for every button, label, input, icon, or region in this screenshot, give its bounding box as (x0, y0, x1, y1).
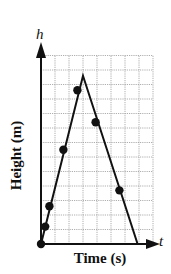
trajectory-polyline (41, 76, 138, 244)
data-point (59, 146, 67, 154)
axes (36, 42, 160, 249)
y-axis-label: Height (m) (2, 90, 32, 220)
x-axis-symbol: t (159, 233, 163, 250)
data-point (37, 240, 45, 248)
data-point (45, 202, 53, 210)
data-point (115, 186, 123, 194)
y-axis-label-text: Height (m) (9, 120, 26, 190)
y-axis-arrow-icon (36, 42, 46, 58)
data-point (91, 118, 99, 126)
x-axis-label: Time (s) (50, 250, 150, 267)
grid (41, 56, 153, 245)
data-point (73, 86, 81, 94)
data-point (41, 222, 49, 230)
x-axis-arrow-icon (146, 239, 160, 249)
trajectory-line (41, 76, 138, 244)
data-points (37, 86, 124, 248)
y-axis-symbol: h (36, 26, 44, 43)
